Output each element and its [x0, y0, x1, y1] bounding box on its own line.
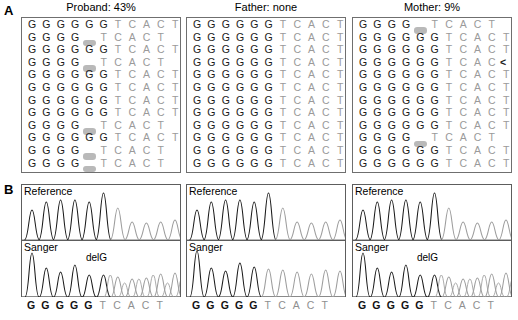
base-letter: G	[39, 144, 53, 157]
base-letter: G	[385, 56, 399, 69]
base-letter: C	[111, 119, 125, 132]
base-letter: G	[261, 157, 275, 170]
base-letter: T	[333, 81, 347, 94]
base-letter: T	[333, 131, 347, 144]
base-letter: G	[68, 94, 82, 107]
axis-base-letter: T	[260, 299, 274, 311]
base-letter: T	[333, 106, 347, 119]
base-letter: G	[356, 68, 370, 81]
base-letter: A	[304, 119, 318, 132]
base-letter: T	[499, 119, 513, 132]
base-letter: T	[111, 18, 125, 31]
base-letter: A	[456, 18, 470, 31]
base-letter: G	[39, 43, 53, 56]
base-letter: G	[190, 81, 204, 94]
base-letter: G	[39, 106, 53, 119]
base-letter: G	[413, 106, 427, 119]
base-letter: T	[442, 81, 456, 94]
base-letter: G	[68, 119, 82, 132]
base-letter: G	[356, 144, 370, 157]
base-letter: G	[96, 81, 110, 94]
base-letter: C	[125, 94, 139, 107]
base-letter: C	[319, 81, 333, 94]
base-letter: T	[276, 68, 290, 81]
base-letter: G	[233, 31, 247, 44]
base-letter: G	[413, 144, 427, 157]
base-letter: G	[96, 68, 110, 81]
base-letter: G	[427, 81, 441, 94]
base-letter: T	[111, 106, 125, 119]
base-letter: A	[470, 56, 484, 69]
base-letter: G	[233, 106, 247, 119]
base-letter: T	[168, 94, 182, 107]
base-letter: T	[442, 119, 456, 132]
base-letter: A	[304, 43, 318, 56]
base-letter: G	[39, 81, 53, 94]
base-letter: C	[139, 119, 153, 132]
axis-base-letter: G	[355, 299, 369, 311]
base-letter: G	[96, 94, 110, 107]
sanger-label-mother: Sanger	[355, 241, 389, 253]
read-truncation-marker: <	[496, 56, 510, 69]
axis-base-letter: G	[203, 299, 217, 311]
axis-base-letter: C	[303, 299, 317, 311]
base-letter: T	[276, 131, 290, 144]
base-letter: T	[442, 31, 456, 44]
base-letter: G	[68, 56, 82, 69]
axis-base-letter: G	[246, 299, 260, 311]
base-letter: G	[261, 18, 275, 31]
axis-base-letter: T	[426, 299, 440, 311]
base-letter: G	[190, 31, 204, 44]
base-letter: C	[485, 157, 499, 170]
base-letter: G	[233, 56, 247, 69]
delg-annotation-proband: delG	[86, 252, 107, 263]
base-letter: T	[276, 144, 290, 157]
base-letter: T	[442, 106, 456, 119]
base-letter: C	[290, 31, 304, 44]
axis-base-letter: C	[110, 299, 124, 311]
read-row: GGGGTCACT	[353, 18, 511, 31]
base-letter: T	[442, 157, 456, 170]
base-letter: G	[370, 43, 384, 56]
base-letter: T	[333, 144, 347, 157]
read-row: GGGGTCACT	[22, 119, 180, 132]
base-letter: G	[39, 94, 53, 107]
base-letter: C	[154, 106, 168, 119]
base-letter: T	[96, 56, 110, 69]
base-letter: G	[68, 144, 82, 157]
base-letter: G	[68, 68, 82, 81]
base-letter: T	[154, 31, 168, 44]
base-letter: C	[111, 157, 125, 170]
base-letter: G	[219, 157, 233, 170]
base-letter: G	[370, 56, 384, 69]
base-letter: T	[96, 31, 110, 44]
base-letter: T	[276, 81, 290, 94]
read-row: GGGGTCACT	[22, 31, 180, 44]
base-letter: C	[290, 119, 304, 132]
base-letter: C	[456, 106, 470, 119]
base-letter: G	[233, 119, 247, 132]
base-letter: G	[247, 106, 261, 119]
base-letter: G	[54, 81, 68, 94]
base-letter: G	[25, 131, 39, 144]
base-letter: C	[456, 31, 470, 44]
read-row: GGGGGGTCACT	[22, 94, 180, 107]
base-letter: G	[399, 157, 413, 170]
base-letter: G	[68, 31, 82, 44]
base-letter: G	[247, 43, 261, 56]
base-letter: T	[276, 119, 290, 132]
base-letter: G	[385, 157, 399, 170]
base-letter: G	[54, 131, 68, 144]
base-letter: G	[96, 18, 110, 31]
base-letter: G	[413, 43, 427, 56]
base-letter: C	[290, 68, 304, 81]
base-letter: T	[276, 157, 290, 170]
base-letter: G	[385, 119, 399, 132]
base-letter: G	[190, 43, 204, 56]
base-letter: T	[111, 131, 125, 144]
base-letter: G	[96, 131, 110, 144]
base-letter: A	[304, 157, 318, 170]
base-letter: T	[427, 131, 441, 144]
base-letter: C	[442, 131, 456, 144]
base-letter: A	[304, 106, 318, 119]
